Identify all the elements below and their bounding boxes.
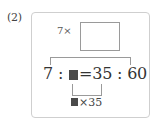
equation-right-term-1: 35: [92, 64, 112, 83]
unknown-square-icon: [71, 98, 78, 106]
ratio-equation: 7 : =35 : 60: [43, 64, 147, 83]
bottom-bracket-right-leg: [101, 84, 102, 95]
bottom-multiplier-text: ×35: [79, 96, 102, 109]
top-multiplier-label: 7×: [57, 25, 72, 36]
answer-input-box[interactable]: [80, 22, 120, 51]
bottom-bracket-left-leg: [72, 84, 73, 95]
unknown-square-icon: [69, 70, 78, 80]
bottom-multiplier-label: ×35: [70, 96, 102, 109]
problem-number-label: (2): [7, 11, 22, 24]
top-bracket-horizontal: [50, 57, 131, 58]
equation-left-term: 7: [43, 64, 53, 83]
equation-equals: =: [79, 64, 92, 83]
equation-colon-1: :: [58, 64, 63, 83]
equation-colon-2: :: [117, 64, 122, 83]
equation-right-term-2: 60: [127, 64, 147, 83]
